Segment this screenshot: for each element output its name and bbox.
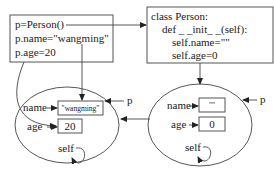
right-self-label: self (185, 141, 201, 153)
left-age-label: age (27, 120, 42, 132)
code-line-set-name: p.name="wangming" (15, 32, 109, 44)
right-age-label: age (171, 118, 186, 130)
class-line-name: self.name="" (172, 36, 230, 48)
right-object: name "" age 0 self p (148, 84, 266, 166)
left-self-label: self (58, 142, 74, 154)
class-line-init: def _ _init_ _(self): (162, 23, 247, 36)
right-p-label: p (260, 93, 266, 105)
left-name-value: "wangming" (62, 104, 100, 113)
right-name-value: "" (209, 101, 215, 110)
code-line-create: p=Person() (15, 18, 64, 31)
object-memory-diagram: p=Person() p.name="wangming" p.age=20 cl… (0, 0, 274, 172)
class-line-age: self.age=0 (172, 49, 218, 61)
code-line-set-age: p.age=20 (15, 46, 56, 58)
left-object: name "wangming" age 20 self p (15, 87, 133, 163)
left-p-label: p (127, 94, 133, 106)
left-self-loop (72, 148, 85, 163)
left-age-value: 20 (65, 120, 77, 132)
caller-code-box: p=Person() p.name="wangming" p.age=20 (10, 15, 113, 62)
class-definition-box: class Person: def _ _init_ _(self): self… (147, 7, 273, 63)
class-line-header: class Person: (151, 10, 208, 22)
right-age-value: 0 (209, 118, 215, 130)
left-name-label: name (23, 101, 47, 113)
right-name-label: name (167, 99, 191, 111)
